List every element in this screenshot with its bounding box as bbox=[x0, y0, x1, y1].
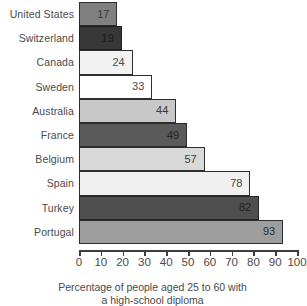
bar: 82 bbox=[79, 196, 259, 220]
plot-area: 17192433444957788293 bbox=[79, 2, 297, 244]
bar-value-label: 82 bbox=[239, 202, 258, 213]
bar-row: 33 bbox=[79, 75, 297, 99]
bar-row: 17 bbox=[79, 2, 297, 26]
caption-line-2: a high-school diploma bbox=[0, 294, 305, 306]
bar: 44 bbox=[79, 99, 176, 123]
bar-row: 78 bbox=[79, 171, 297, 195]
axis-tick-label: 40 bbox=[160, 256, 173, 268]
category-axis-labels: United StatesSwitzerlandCanadaSwedenAust… bbox=[0, 2, 74, 244]
bar-value-label: 24 bbox=[112, 57, 131, 68]
bar-row: 57 bbox=[79, 147, 297, 171]
axis-tick-label: 100 bbox=[287, 256, 306, 268]
value-axis bbox=[79, 250, 298, 253]
bar-row: 24 bbox=[79, 50, 297, 74]
category-label: Belgium bbox=[0, 147, 74, 171]
axis-tick-label: 80 bbox=[247, 256, 260, 268]
bar-value-label: 57 bbox=[184, 154, 203, 165]
bar-row: 82 bbox=[79, 196, 297, 220]
category-label: Canada bbox=[0, 50, 74, 74]
axis-tick-label: 70 bbox=[225, 256, 238, 268]
bar-row: 19 bbox=[79, 26, 297, 50]
bar: 57 bbox=[79, 147, 205, 171]
axis-tick-label: 20 bbox=[116, 256, 129, 268]
bar-value-label: 49 bbox=[167, 130, 186, 141]
category-label: Australia bbox=[0, 99, 74, 123]
bar-value-label: 19 bbox=[102, 33, 121, 44]
bar-value-label: 78 bbox=[230, 178, 249, 189]
bar: 19 bbox=[79, 26, 122, 50]
bar-value-label: 44 bbox=[156, 105, 175, 116]
bar: 78 bbox=[79, 171, 250, 195]
category-label: United States bbox=[0, 2, 74, 26]
category-label: Spain bbox=[0, 171, 74, 195]
bar-value-label: 17 bbox=[97, 9, 116, 20]
category-label: France bbox=[0, 123, 74, 147]
caption-line-1: Percentage of people aged 25 to 60 with bbox=[0, 281, 305, 294]
bar: 24 bbox=[79, 50, 133, 74]
bar: 49 bbox=[79, 123, 187, 147]
axis-caption: Percentage of people aged 25 to 60 with … bbox=[0, 281, 305, 306]
axis-tick-label: 50 bbox=[182, 256, 195, 268]
bar: 93 bbox=[79, 220, 283, 244]
bar-row: 93 bbox=[79, 220, 297, 244]
axis-tick-label: 30 bbox=[138, 256, 151, 268]
value-axis-tick-labels: 0102030405060708090100 bbox=[79, 256, 298, 270]
axis-tick-label: 0 bbox=[76, 256, 82, 268]
bar-value-label: 33 bbox=[132, 81, 151, 92]
category-label: Portugal bbox=[0, 220, 74, 244]
bar: 33 bbox=[79, 75, 152, 99]
category-label: Switzerland bbox=[0, 26, 74, 50]
bar: 17 bbox=[79, 2, 117, 26]
bar-row: 49 bbox=[79, 123, 297, 147]
category-label: Sweden bbox=[0, 75, 74, 99]
axis-tick-label: 10 bbox=[94, 256, 107, 268]
bar-row: 44 bbox=[79, 99, 297, 123]
bar-value-label: 93 bbox=[263, 226, 282, 237]
axis-tick-label: 60 bbox=[203, 256, 216, 268]
axis-tick-label: 90 bbox=[269, 256, 282, 268]
category-label: Turkey bbox=[0, 196, 74, 220]
